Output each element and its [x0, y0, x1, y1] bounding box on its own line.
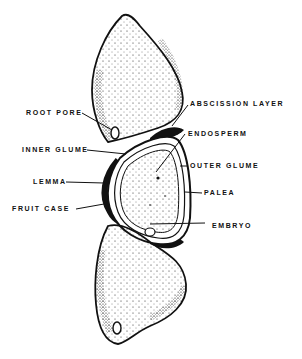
label-palea: PALEA: [204, 189, 235, 197]
label-lemma: LEMMA: [33, 178, 67, 186]
diagram-figure: ROOT PORE INNER GLUME LEMMA FRUIT CASE A…: [0, 0, 302, 359]
label-embryo: EMBRYO: [212, 222, 252, 230]
label-inner-glume: INNER GLUME: [22, 146, 89, 154]
label-outer-glume: OUTER GLUME: [190, 162, 259, 170]
upper-fruit-case: [92, 15, 183, 142]
label-endosperm: ENDOSPERM: [188, 130, 248, 138]
label-abscission-layer: ABSCISSION LAYER: [190, 100, 284, 108]
label-root-pore: ROOT PORE: [26, 109, 82, 117]
label-fruit-case: FRUIT CASE: [12, 205, 70, 213]
